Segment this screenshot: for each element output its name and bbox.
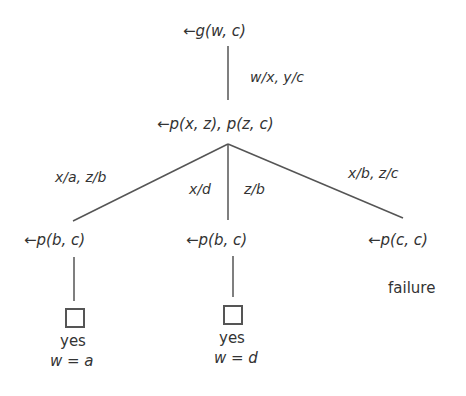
right-node: ←p(c, c) — [368, 231, 428, 249]
center-goal: p(b, c) — [199, 231, 248, 249]
success-box-center — [224, 306, 242, 324]
arrow-left-icon: ← — [157, 115, 170, 133]
success-box-left — [66, 309, 84, 327]
middle-node: ←p(x, z), p(z, c) — [157, 115, 274, 133]
edge-label-middle-left: x/a, z/b — [55, 168, 106, 186]
left-node: ←p(b, c) — [24, 231, 85, 249]
center-answer: w = d — [214, 349, 258, 367]
right-goal: p(c, c) — [381, 231, 428, 249]
left-result: yes — [60, 332, 86, 350]
left-answer: w = a — [50, 352, 94, 370]
arrow-left-icon: ← — [186, 231, 199, 249]
center-result: yes — [219, 329, 245, 347]
center-node: ←p(b, c) — [186, 231, 247, 249]
edge-label-root-middle: w/x, y/c — [250, 68, 304, 86]
root-node: ←g(w, c) — [183, 22, 246, 40]
arrow-left-icon: ← — [24, 231, 37, 249]
edge-label-middle-center-a: x/d — [189, 180, 211, 198]
edge-label-middle-center-b: z/b — [244, 180, 265, 198]
root-goal: g(w, c) — [196, 22, 246, 40]
middle-goal: p(x, z), p(z, c) — [170, 115, 274, 133]
right-result: failure — [388, 279, 435, 297]
arrow-left-icon: ← — [368, 231, 381, 249]
arrow-left-icon: ← — [183, 22, 196, 40]
left-goal: p(b, c) — [37, 231, 86, 249]
edge-label-middle-right: x/b, z/c — [348, 164, 399, 182]
